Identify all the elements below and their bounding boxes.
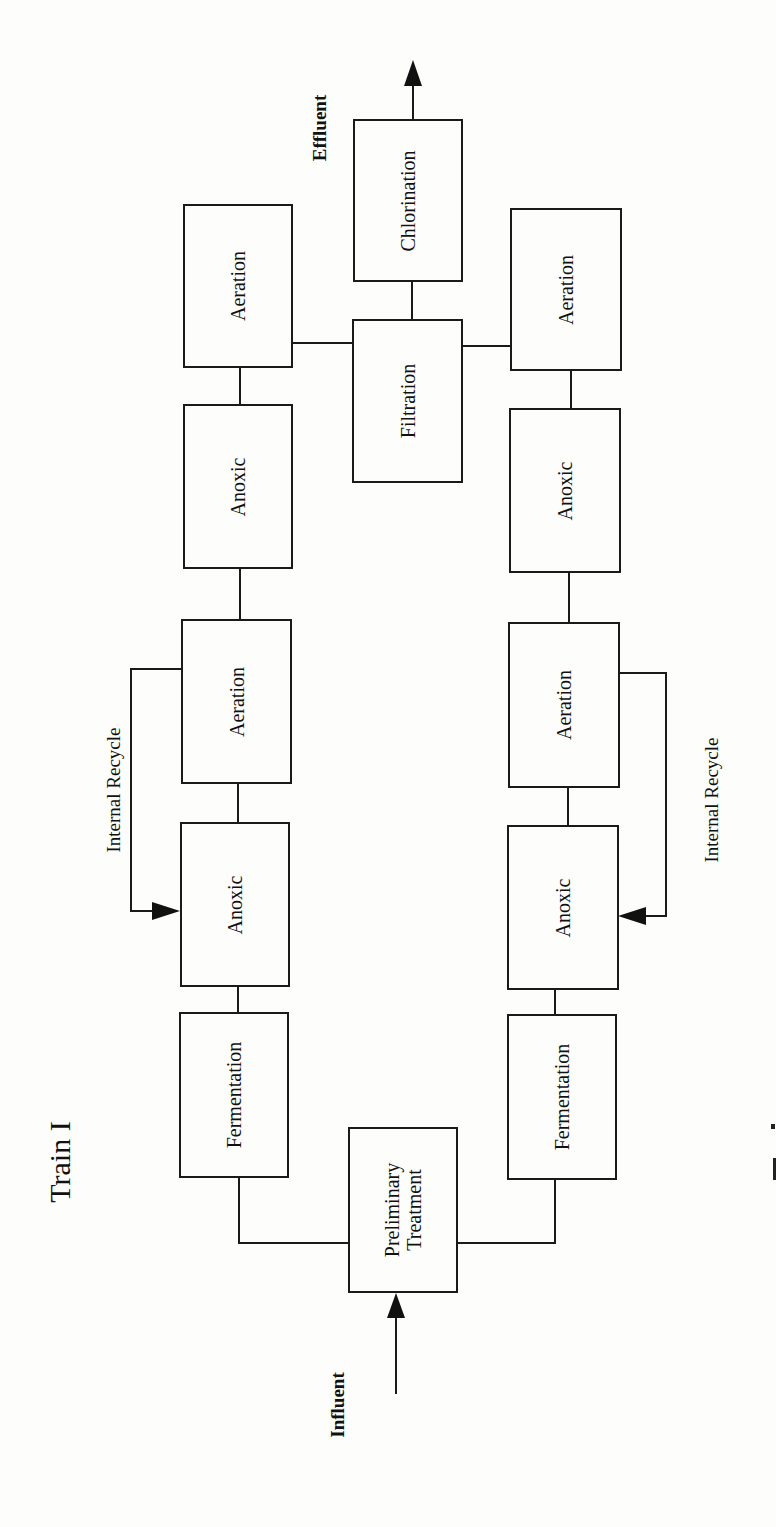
aeration-box-right-1: Aeration	[508, 622, 620, 788]
diagram-canvas: Train I Influent Effluent Internal Recyc…	[0, 0, 776, 1527]
anoxic-box-left-1: Anoxic	[180, 822, 290, 987]
anoxic-box-right-2: Anoxic	[509, 408, 621, 573]
box-label: Aeration	[555, 255, 577, 325]
box-label: Anoxic	[554, 461, 576, 520]
anoxic-box-right-1: Anoxic	[507, 825, 619, 990]
influent-label: Influent	[327, 1372, 349, 1437]
internal-recycle-right-label: Internal Recycle	[701, 737, 723, 862]
box-label: Anoxic	[552, 878, 574, 937]
aeration-box-right-2: Aeration	[510, 208, 622, 371]
box-label: Chlorination	[397, 150, 419, 251]
cutoff-caption-glyph	[771, 1124, 775, 1129]
anoxic-box-left-2: Anoxic	[183, 404, 293, 569]
filtration-box: Filtration	[352, 319, 463, 483]
aeration-box-left-1: Aeration	[181, 619, 292, 784]
fermentation-box-left: Fermentation	[179, 1012, 289, 1178]
box-label: Fermentation	[223, 1042, 245, 1149]
box-label-line2: Treatment	[403, 1163, 425, 1257]
aeration-box-left-2: Aeration	[183, 204, 293, 368]
box-label: Filtration	[397, 364, 419, 438]
box-label: Aeration	[227, 251, 249, 321]
fermentation-box-right: Fermentation	[507, 1014, 617, 1180]
box-label: Preliminary Treatment	[381, 1163, 425, 1257]
box-label-line1: Preliminary	[381, 1163, 403, 1257]
box-label: Aeration	[553, 670, 575, 740]
internal-recycle-left-label: Internal Recycle	[103, 727, 125, 852]
box-label: Anoxic	[224, 875, 246, 934]
preliminary-treatment-box: Preliminary Treatment	[348, 1127, 458, 1293]
box-label: Aeration	[226, 667, 248, 737]
box-label: Anoxic	[227, 457, 249, 516]
diagram-title: Train I	[43, 1121, 77, 1202]
box-label: Fermentation	[551, 1044, 573, 1151]
effluent-label: Effluent	[309, 95, 331, 162]
chlorination-box: Chlorination	[353, 119, 463, 282]
